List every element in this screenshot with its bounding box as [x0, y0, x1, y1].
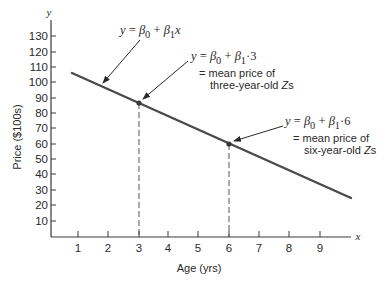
x-tick-label: 5: [195, 242, 201, 254]
x-tick-label: 1: [75, 242, 81, 254]
eq-y: y: [285, 114, 291, 128]
z-letter: Z: [364, 144, 371, 156]
annotation-age-3: y = β0 + β1·3 = mean price of three-year…: [191, 50, 294, 91]
y-tick-label: 40: [35, 168, 48, 180]
annotation-age-6: y = β0 + β1·6 = mean price of six-year-o…: [285, 115, 376, 156]
x-tick-label: 6: [226, 242, 232, 254]
z-plural: s: [371, 144, 377, 156]
beta0-sub: 0: [145, 29, 150, 40]
beta0-sub: 0: [310, 120, 315, 131]
x-axis-variable: x: [355, 230, 361, 242]
arrow-age-6: [234, 126, 283, 141]
arrow-line-equation: [103, 40, 140, 83]
y-ticks: [51, 36, 56, 221]
x-tick-label: 4: [165, 242, 172, 254]
arrow-age-3: [143, 61, 188, 99]
y-tick-label: 120: [29, 46, 48, 58]
y-tick-label: 80: [35, 107, 48, 119]
x-tick-label: 9: [317, 242, 323, 254]
annotation-age-3-line3: three-year-old Zs: [191, 79, 294, 91]
y-tick-label: 50: [35, 153, 48, 165]
eq-sign: =: [200, 49, 207, 63]
z-plural: s: [288, 79, 294, 91]
eq-x: x: [175, 23, 181, 37]
x-tick-label: 8: [286, 242, 292, 254]
y-tick-label: 130: [29, 30, 48, 42]
point-age-6: [226, 141, 231, 146]
y-tick-label: 110: [30, 61, 48, 73]
annotation-age-6-line2: = mean price of: [285, 132, 376, 144]
eq-sign: =: [294, 114, 301, 128]
beta0-sub: 0: [216, 55, 221, 66]
x-ticks: [78, 231, 320, 237]
point-age-3: [136, 100, 141, 105]
x-tick-label: 7: [256, 242, 262, 254]
plus-sign: +: [318, 114, 325, 128]
y-tick-label: 100: [29, 76, 48, 88]
six-year-old-text: six-year-old: [304, 144, 364, 156]
plus-sign: +: [224, 49, 231, 63]
three-year-old-text: three-year-old: [210, 79, 282, 91]
times-three: ·3: [246, 49, 256, 63]
y-tick-label: 70: [35, 122, 48, 134]
times-six: ·6: [340, 114, 350, 128]
eq-y: y: [191, 49, 197, 63]
y-tick-label: 60: [35, 138, 48, 150]
annotation-age-3-line2: = mean price of: [191, 67, 294, 79]
annotation-age-6-line3: six-year-old Zs: [285, 144, 376, 156]
y-tick-label: 10: [35, 215, 48, 227]
y-tick-label: 30: [35, 184, 48, 196]
y-tick-label: 90: [35, 92, 48, 104]
x-tick-label: 2: [105, 242, 111, 254]
x-axis-title: Age (yrs): [177, 262, 222, 274]
eq-sign: =: [129, 23, 136, 37]
x-tick-label: 3: [136, 242, 142, 254]
eq-y: y: [120, 23, 126, 37]
annotation-regression-equation: y = β0 + β1x: [120, 24, 181, 41]
y-tick-label: 20: [35, 199, 48, 211]
plus-sign: +: [153, 23, 160, 37]
y-axis-title: Price ($100s): [11, 104, 23, 169]
y-axis-variable: y: [46, 6, 52, 18]
